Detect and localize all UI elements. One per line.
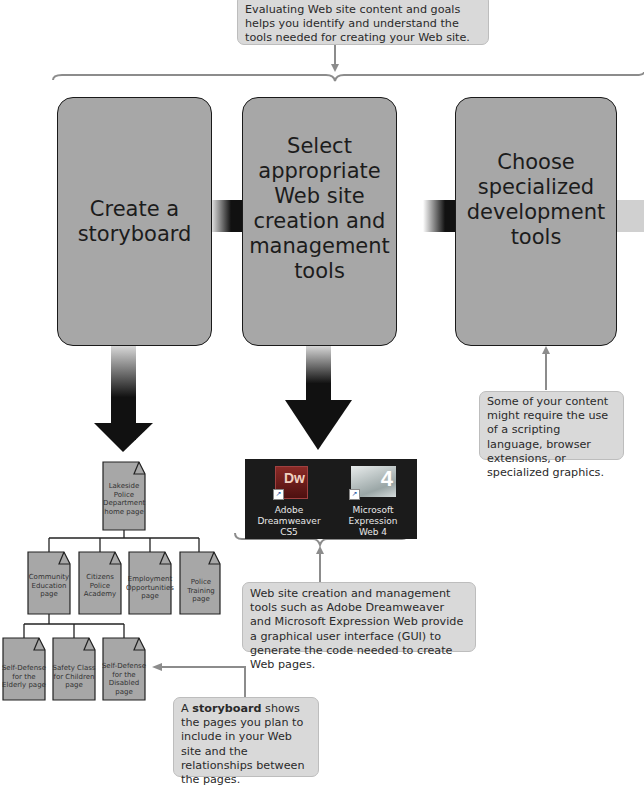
page-police-training-label: Police Training page (178, 578, 224, 604)
page-community-education-label: Community Education page (26, 573, 72, 599)
page-self-defense-disabled-label: Self-Defense for the Disabled page (101, 662, 147, 696)
page-citizens-police-academy-label: Citizens Police Academy (78, 573, 122, 599)
page-employment-opportunities-label: Employment Opportunities page (126, 575, 174, 601)
expression-web-icon-tile[interactable]: 4 ↗ Microsoft Expression Web 4 (329, 459, 417, 539)
shortcut-arrow-icon: ↗ (349, 489, 360, 500)
expression-web-label: Microsoft Expression Web 4 (329, 505, 417, 538)
specialized-tools-callout-text: Some of your content might require the u… (487, 395, 608, 479)
page-safety-class-children-label: Safety Class for Children page (51, 664, 97, 690)
page-self-defense-elderly-label: Self-Defense for the Elderly page (0, 664, 48, 690)
storyboard-callout-bold: storyboard (192, 702, 261, 715)
expression-web-glyph: 4 (381, 466, 393, 492)
dreamweaver-icon-tile[interactable]: Dw ↗ Adobe Dreamweaver CS5 (245, 459, 333, 539)
tools-callout: Web site creation and management tools s… (242, 582, 476, 652)
shortcut-arrow-icon: ↗ (273, 489, 284, 500)
page-root-label: Lakeside Police Department home page (103, 482, 145, 516)
storyboard-callout: A storyboard shows the pages you plan to… (173, 697, 319, 777)
dreamweaver-glyph: Dw (284, 470, 305, 486)
specialized-tools-callout: Some of your content might require the u… (479, 391, 624, 460)
storyboard-callout-prefix: A (181, 702, 192, 715)
dreamweaver-label: Adobe Dreamweaver CS5 (245, 505, 333, 538)
